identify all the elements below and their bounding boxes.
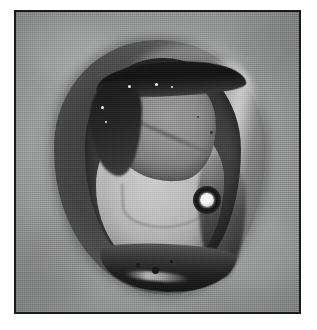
- light-speck: [128, 85, 131, 88]
- dark-fleck: [152, 267, 159, 274]
- dark-fleck: [197, 116, 199, 118]
- marker-core: [200, 193, 214, 207]
- bright-circular-marker: [193, 186, 221, 214]
- light-speck: [171, 86, 173, 88]
- photo-frame: [14, 10, 301, 314]
- light-speck: [105, 121, 107, 123]
- marker-stem: [206, 214, 208, 234]
- dark-fleck: [210, 131, 213, 134]
- specimen: [38, 34, 283, 299]
- figure-root: [0, 0, 317, 330]
- photograph-plate: [16, 12, 299, 312]
- dark-fleck: [170, 260, 173, 263]
- bottom-crust-band-region: [99, 242, 237, 295]
- figure-caption: [14, 318, 301, 328]
- dark-fleck: [136, 263, 140, 267]
- light-speck: [101, 106, 104, 109]
- light-speck: [155, 83, 158, 86]
